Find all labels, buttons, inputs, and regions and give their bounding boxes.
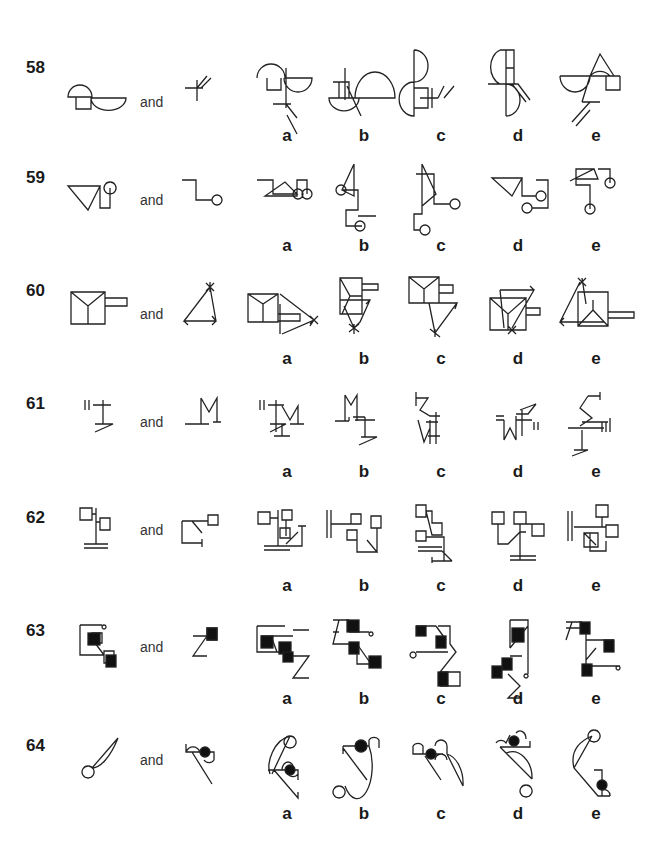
answer-figure-b [333,620,413,700]
option-label-e[interactable]: e [586,126,606,146]
option-label-b[interactable]: b [354,462,374,482]
option-label-a[interactable]: a [277,462,297,482]
stem-figure-2-shape [185,398,221,424]
filled-square-icon [580,622,590,634]
answer-figure-c [414,164,494,244]
stem-figure-2-shape [182,515,218,547]
option-label-b[interactable]: b [354,689,374,709]
option-label-e[interactable]: e [586,236,606,256]
question-number: 61 [26,394,45,414]
option-label-a[interactable]: a [277,236,297,256]
option-label-d[interactable]: d [508,126,528,146]
stem-figure-1 [68,80,148,160]
answer-figure-b-shape [327,510,381,552]
answer-figure-b-shape [336,164,376,231]
stem-figure-1-shape [82,738,118,778]
answer-figure-a-shape [257,180,312,199]
option-label-b[interactable]: b [354,804,374,824]
filled-circle-icon [285,765,295,775]
question-number: 60 [26,281,45,301]
stem-figure-1 [68,178,148,258]
option-label-b[interactable]: b [354,126,374,146]
answer-figure-c [416,392,496,472]
answer-figure-b [336,164,416,244]
option-label-c[interactable]: c [431,126,451,146]
option-label-c[interactable]: c [431,349,451,369]
answer-figure-e-shape [560,54,620,126]
option-label-e[interactable]: e [586,689,606,709]
filled-square-icon [492,666,502,678]
filled-square-icon [283,652,293,662]
option-label-d[interactable]: d [508,462,528,482]
answer-figure-b-shape [329,68,395,116]
answer-figure-b [335,395,415,475]
option-label-c[interactable]: c [431,576,451,596]
answer-figure-a-shape [258,510,306,550]
answer-figure-a [258,510,338,590]
option-label-b[interactable]: b [354,349,374,369]
answer-figure-c [416,626,496,706]
filled-circle-icon [509,736,519,746]
option-label-c[interactable]: c [431,689,451,709]
answer-figure-c [413,740,493,820]
question-number: 62 [26,508,45,528]
answer-figure-c-shape [416,505,452,563]
answer-figure-c-shape [416,392,440,444]
filled-square-icon [261,636,273,648]
answer-figure-a-shape [248,294,318,334]
option-label-d[interactable]: d [508,689,528,709]
answer-figure-d [492,178,572,258]
stem-figure-2-shape [184,282,216,325]
option-label-a[interactable]: a [277,576,297,596]
answer-figure-a-shape [260,400,304,436]
stem-figure-1 [80,738,160,818]
option-label-c[interactable]: c [431,462,451,482]
option-label-a[interactable]: a [277,804,297,824]
filled-square-icon [347,620,359,632]
answer-figure-e-shape [560,278,634,326]
option-label-e[interactable]: e [586,804,606,824]
answer-figure-e [568,505,648,585]
answer-figure-c-shape [414,164,460,235]
filled-square-icon [349,642,359,654]
answer-figure-e-shape [568,392,610,456]
answer-figure-a [257,626,337,706]
option-label-b[interactable]: b [354,576,374,596]
option-label-d[interactable]: d [508,576,528,596]
answer-figure-d-shape [492,512,544,560]
answer-figure-a [262,730,342,810]
filled-square-icon [88,633,100,645]
answer-figure-d-shape [490,286,540,334]
option-label-a[interactable]: a [277,126,297,146]
filled-square-icon [582,664,592,676]
answer-figure-b-shape [335,395,377,445]
answer-figure-c [409,277,489,357]
option-label-a[interactable]: a [277,689,297,709]
stem-figure-2 [186,738,266,818]
answer-figure-e [570,730,650,810]
option-label-c[interactable]: c [431,236,451,256]
answer-figure-d [490,288,570,368]
question-number: 58 [26,58,45,78]
filled-square-icon [106,655,116,667]
question-number: 63 [26,621,45,641]
answer-figure-c-shape [409,277,457,337]
stem-figure-1 [71,292,151,372]
stem-figure-1-shape [68,182,116,210]
stem-figure-2 [185,398,265,478]
answer-figure-b [340,278,420,358]
answer-figure-c [408,50,488,130]
option-label-c[interactable]: c [431,804,451,824]
answer-figure-c [416,505,496,585]
answer-figure-e-shape [568,505,618,551]
answer-figure-a [257,178,337,258]
option-label-d[interactable]: d [508,349,528,369]
option-label-e[interactable]: e [586,349,606,369]
option-label-a[interactable]: a [277,349,297,369]
option-label-b[interactable]: b [354,236,374,256]
option-label-e[interactable]: e [586,576,606,596]
option-label-d[interactable]: d [508,804,528,824]
option-label-d[interactable]: d [508,236,528,256]
option-label-e[interactable]: e [586,462,606,482]
filled-square-icon [604,640,614,652]
